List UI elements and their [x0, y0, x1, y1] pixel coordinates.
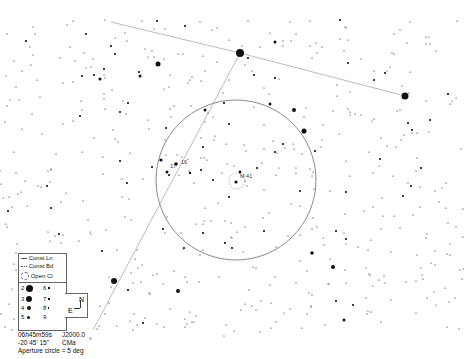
star-label-17: 17 — [170, 163, 176, 169]
legend-mag-5: 5 — [21, 314, 30, 320]
cluster-label: M 41 — [240, 173, 252, 179]
legend-mag-9: 9 — [43, 314, 46, 320]
aperture-text: Aperture circle = 5 deg — [18, 347, 84, 354]
legend-mag-4: 4 — [21, 305, 31, 311]
compass-east: E — [68, 307, 73, 314]
star-chart[interactable]: M 41 16 17 Const Ln Const Bd Open Cl 2 3… — [0, 0, 465, 359]
epoch: J2000.0 — [62, 331, 85, 338]
legend-const-bd: Const Bd — [21, 263, 53, 269]
aperture-circle — [156, 100, 316, 260]
legend-mag-6: 6 — [43, 285, 50, 291]
compass-box: N E — [65, 293, 88, 318]
star-label-16: 16 — [181, 159, 187, 165]
legend-const-ln: Const Ln — [21, 255, 53, 261]
coordinates-dec: -20 45' 15" — [18, 339, 49, 346]
coordinates-ra: 06h45m59s — [18, 331, 52, 338]
constellation-name: CMa — [62, 339, 76, 346]
legend-mag-7: 7 — [43, 296, 50, 302]
legend-mag-8: 8 — [43, 305, 49, 311]
legend-mag-2: 2 — [21, 285, 33, 292]
legend-mag-3: 3 — [21, 296, 32, 302]
legend-box: Const Ln Const Bd Open Cl 2 3 4 5 6 7 8 … — [18, 253, 67, 331]
legend-open-cl: Open Cl — [21, 272, 53, 280]
